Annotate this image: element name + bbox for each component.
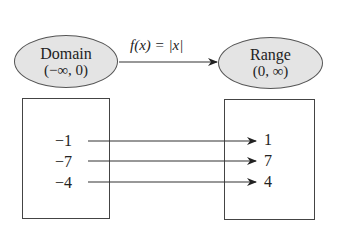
function-label: f(x) = |x| [130, 37, 183, 54]
domain-interval: (−∞, 0) [44, 62, 88, 79]
range-title: Range [250, 46, 291, 63]
output-value: 1 [264, 132, 272, 148]
range-interval: (0, ∞) [253, 63, 289, 80]
input-value: −1 [55, 133, 72, 149]
domain-title: Domain [40, 45, 92, 62]
domain-ellipse: Domain (−∞, 0) [14, 35, 118, 88]
input-value: −4 [55, 175, 72, 191]
output-value: 7 [264, 153, 272, 169]
output-value: 4 [264, 174, 272, 190]
input-value: −7 [55, 154, 72, 170]
range-ellipse: Range (0, ∞) [218, 37, 323, 89]
function-mapping-diagram: Domain (−∞, 0) Range (0, ∞) f(x) = |x| −… [0, 0, 337, 232]
